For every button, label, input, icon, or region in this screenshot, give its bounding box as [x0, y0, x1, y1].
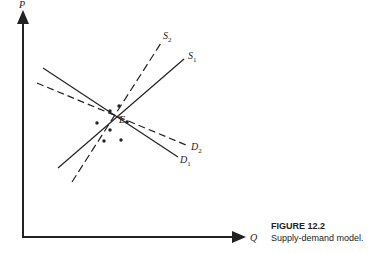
label-s2: S2 — [163, 30, 172, 44]
equilibrium-label: E — [118, 114, 125, 125]
figure-caption-text: Supply-demand model. — [271, 233, 364, 244]
label-s1: S1 — [188, 50, 197, 64]
y-axis-label: P — [18, 0, 25, 10]
x-axis-label: Q — [250, 232, 258, 243]
supply-curve-s2 — [72, 43, 161, 182]
demand-curve-d2 — [37, 83, 186, 145]
supply-demand-diagram: P Q S1 S2 D2 D1 E — [0, 0, 391, 253]
label-d2: D2 — [190, 141, 202, 155]
figure-caption-title: FIGURE 12.2 — [271, 221, 325, 232]
label-d1: D1 — [179, 154, 191, 168]
